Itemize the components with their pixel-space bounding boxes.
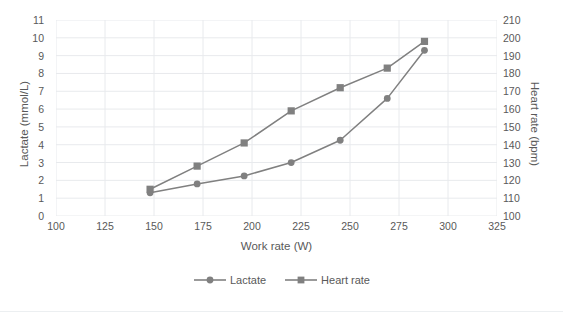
data-point-heart-rate [288, 107, 295, 114]
y-axis-left-tick-label: 1 [38, 193, 50, 204]
series-line-lactate [150, 50, 424, 193]
data-point-lactate [288, 159, 295, 166]
plot-area [56, 20, 497, 216]
square-marker-icon [284, 274, 318, 286]
x-axis-tick-label: 150 [145, 221, 163, 232]
y-axis-left-tick-label: 4 [38, 139, 50, 150]
y-axis-right-tick-label: 130 [503, 157, 521, 168]
x-axis-tick-label: 175 [194, 221, 212, 232]
y-axis-right-tick-label: 170 [503, 86, 521, 97]
series-line-heart-rate [150, 41, 424, 189]
y-axis-left-tick-label: 5 [38, 121, 50, 132]
y-axis-left-tick-label: 7 [38, 86, 50, 97]
legend-item-heart-rate[interactable]: Heart rate [284, 274, 370, 286]
y-axis-right-tick-label: 160 [503, 104, 521, 115]
data-point-heart-rate [241, 139, 248, 146]
x-axis-tick-label: 325 [488, 221, 506, 232]
y-axis-left-tick-label: 6 [38, 104, 50, 115]
y-axis-left-ticks: 01234567891011 [0, 20, 50, 216]
x-axis-ticks: 100125150175200225250275300325 [56, 221, 497, 237]
y-axis-right-ticks: 100110120130140150160170180190200210 [503, 20, 535, 216]
y-axis-right-tick-label: 180 [503, 68, 521, 79]
y-axis-right-tick-label: 120 [503, 175, 521, 186]
data-point-lactate [241, 173, 248, 180]
x-axis-tick-label: 125 [96, 221, 114, 232]
x-axis-tick-label: 250 [341, 221, 359, 232]
y-axis-left-tick-label: 2 [38, 175, 50, 186]
y-axis-left-tick-label: 3 [38, 157, 50, 168]
legend-item-lactate[interactable]: Lactate [193, 274, 266, 286]
data-series-layer [56, 20, 497, 216]
x-axis-tick-label: 225 [292, 221, 310, 232]
legend-label-lactate: Lactate [230, 274, 266, 286]
y-axis-right-tick-label: 150 [503, 121, 521, 132]
legend-label-heart-rate: Heart rate [321, 274, 370, 286]
data-point-heart-rate [146, 186, 153, 193]
y-axis-left-tick-label: 10 [32, 32, 50, 43]
y-axis-right-tick-label: 140 [503, 139, 521, 150]
y-axis-right-tick-label: 110 [503, 193, 520, 204]
data-point-lactate [384, 95, 391, 102]
data-point-heart-rate [337, 84, 344, 91]
x-axis-title: Work rate (W) [56, 240, 497, 252]
data-point-lactate [337, 137, 344, 144]
y-axis-left-tick-label: 9 [38, 50, 50, 61]
data-point-lactate [194, 181, 201, 188]
data-point-heart-rate [384, 65, 391, 72]
y-axis-right-tick-label: 210 [503, 15, 521, 26]
x-axis-tick-label: 300 [439, 221, 457, 232]
y-axis-left-tick-label: 11 [33, 15, 50, 26]
x-axis-tick-label: 275 [390, 221, 408, 232]
x-axis-tick-label: 200 [243, 221, 261, 232]
y-axis-left-tick-label: 8 [38, 68, 50, 79]
clipped-header-text [0, 0, 563, 3]
x-axis-tick-label: 100 [47, 221, 65, 232]
chart-legend: Lactate Heart rate [0, 274, 563, 286]
chart-container: Lactate (mmol/L) Heart rate (bpm) Work r… [0, 0, 563, 312]
data-point-heart-rate [421, 38, 428, 45]
data-point-heart-rate [194, 163, 201, 170]
y-axis-right-tick-label: 190 [503, 50, 521, 61]
data-point-lactate [421, 47, 428, 54]
y-axis-right-tick-label: 200 [503, 32, 521, 43]
circle-marker-icon [193, 274, 227, 286]
